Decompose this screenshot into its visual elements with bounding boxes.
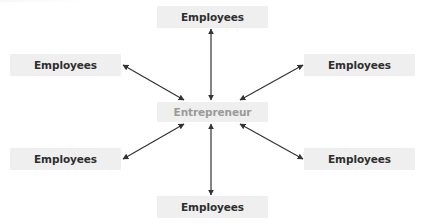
node-label: Employees xyxy=(328,153,391,165)
node-label: Employees xyxy=(181,201,244,213)
node-label: Employees xyxy=(328,59,391,71)
arrow-lower-left xyxy=(123,124,184,159)
node-employees-bottom: Employees xyxy=(157,196,268,218)
node-label: Employees xyxy=(34,153,97,165)
arrow-lower-right xyxy=(240,124,303,159)
arrow-upper-right xyxy=(240,65,303,100)
node-employees-upper-right: Employees xyxy=(304,54,415,76)
node-label: Employees xyxy=(34,59,97,71)
node-employees-upper-left: Employees xyxy=(10,54,121,76)
node-employees-top: Employees xyxy=(157,6,268,28)
center-label: Entrepreneur xyxy=(174,106,252,118)
node-entrepreneur-center: Entrepreneur xyxy=(157,102,268,122)
node-employees-lower-right: Employees xyxy=(304,148,415,170)
arrow-upper-left xyxy=(123,65,184,100)
node-label: Employees xyxy=(181,11,244,23)
node-employees-lower-left: Employees xyxy=(10,148,121,170)
